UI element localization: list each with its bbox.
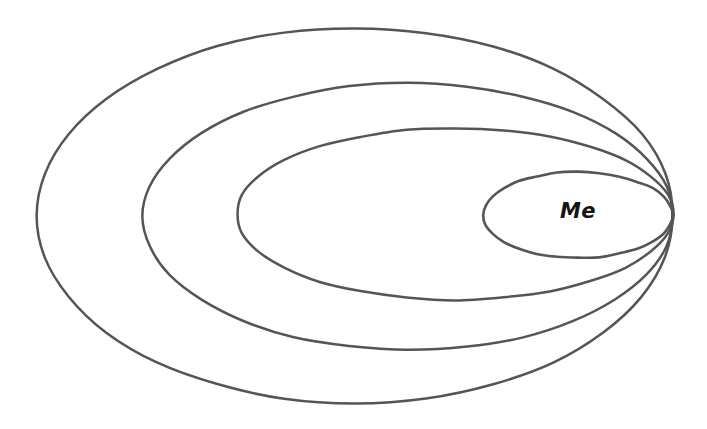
diagram-background [0,0,707,429]
nested-ellipses-diagram: Me [0,0,707,429]
center-label-me: Me [560,199,596,223]
